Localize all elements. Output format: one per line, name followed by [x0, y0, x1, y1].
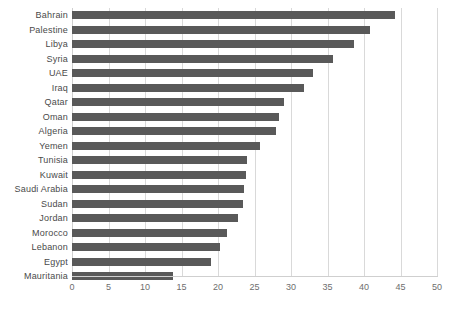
category-label-syria: Syria	[46, 52, 68, 67]
category-label-iraq: Iraq	[52, 81, 68, 96]
bar-yemen	[72, 142, 260, 150]
bar-row	[72, 52, 437, 67]
bar-kuwait	[72, 171, 246, 179]
x-axis-tick-labels: 05101520253035404550	[0, 280, 451, 300]
category-label-jordan: Jordan	[39, 211, 68, 226]
category-label-yemen: Yemen	[39, 139, 68, 154]
bar-bahrain	[72, 11, 395, 19]
category-label-uae: UAE	[49, 66, 68, 81]
x-tick-label-25: 25	[249, 280, 259, 294]
bar-uae	[72, 69, 313, 77]
category-label-libya: Libya	[45, 37, 68, 52]
bar-row	[72, 211, 437, 226]
bar-palestine	[72, 26, 370, 34]
x-tick-label-10: 10	[140, 280, 150, 294]
x-tick-label-45: 45	[395, 280, 405, 294]
x-tick-label-15: 15	[176, 280, 186, 294]
category-label-oman: Oman	[43, 110, 68, 125]
category-axis-labels: BahrainPalestineLibyaSyriaUAEIraqQatarOm…	[0, 8, 68, 276]
bar-chart: BahrainPalestineLibyaSyriaUAEIraqQatarOm…	[0, 0, 451, 309]
x-axis-line	[72, 276, 438, 277]
bar-lebanon	[72, 243, 220, 251]
category-label-bahrain: Bahrain	[36, 8, 68, 23]
x-tick-label-0: 0	[69, 280, 74, 294]
bar-row	[72, 153, 437, 168]
category-label-palestine: Palestine	[29, 23, 68, 38]
bar-egypt	[72, 258, 211, 266]
x-tick-label-20: 20	[213, 280, 223, 294]
bar-row	[72, 8, 437, 23]
bar-row	[72, 23, 437, 38]
category-label-algeria: Algeria	[39, 124, 68, 139]
bar-row	[72, 124, 437, 139]
category-label-lebanon: Lebanon	[32, 240, 68, 255]
bar-tunisia	[72, 156, 247, 164]
bar-algeria	[72, 127, 276, 135]
bar-jordan	[72, 214, 238, 222]
x-tick-label-40: 40	[359, 280, 369, 294]
bar-iraq	[72, 84, 304, 92]
bar-row	[72, 95, 437, 110]
bar-row	[72, 139, 437, 154]
bar-row	[72, 197, 437, 212]
bar-row	[72, 226, 437, 241]
x-tick-label-30: 30	[286, 280, 296, 294]
bar-sudan	[72, 200, 243, 208]
category-label-egypt: Egypt	[44, 255, 68, 270]
x-tick-label-35: 35	[322, 280, 332, 294]
category-label-saudi-arabia: Saudi Arabia	[15, 182, 68, 197]
category-label-tunisia: Tunisia	[38, 153, 68, 168]
bar-row	[72, 66, 437, 81]
gridline-50	[437, 8, 438, 276]
bar-row	[72, 37, 437, 52]
bar-saudi-arabia	[72, 185, 244, 193]
bar-syria	[72, 55, 333, 63]
category-label-qatar: Qatar	[44, 95, 68, 110]
bar-morocco	[72, 229, 227, 237]
x-tick-label-5: 5	[106, 280, 111, 294]
bar-libya	[72, 40, 354, 48]
bar-row	[72, 168, 437, 183]
plot-area	[72, 8, 437, 276]
bar-row	[72, 255, 437, 270]
x-tick-label-50: 50	[432, 280, 442, 294]
category-label-sudan: Sudan	[41, 197, 68, 212]
bar-row	[72, 110, 437, 125]
bar-row	[72, 240, 437, 255]
category-label-morocco: Morocco	[32, 226, 68, 241]
bar-row	[72, 182, 437, 197]
bar-row	[72, 81, 437, 96]
bar-oman	[72, 113, 279, 121]
bar-qatar	[72, 98, 284, 106]
category-label-kuwait: Kuwait	[40, 168, 68, 183]
